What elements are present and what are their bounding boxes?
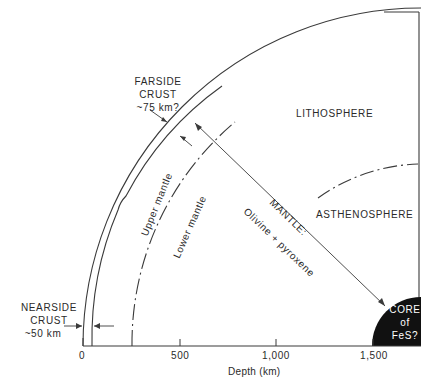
outer-surface-arc	[83, 8, 421, 346]
farside-crust-label: FARSIDE CRUST ~75 km?	[118, 75, 198, 114]
nearside-crust-label: NEARSIDE CRUST ~50 km	[14, 301, 84, 340]
lithosphere-asthenosphere-boundary	[318, 164, 418, 198]
lithosphere-label: LITHOSPHERE	[296, 107, 373, 120]
tick-500: 500	[171, 349, 190, 362]
core-label: CORE of FeS?	[388, 303, 422, 342]
farside-line1: FARSIDE	[118, 75, 198, 88]
core-line3: FeS?	[388, 329, 422, 342]
asthenosphere-label: ASTHENOSPHERE	[316, 208, 413, 221]
tick-1000: 1,000	[262, 349, 290, 362]
core-line2: of	[388, 316, 422, 329]
nearside-line3: ~50 km	[14, 327, 84, 340]
tick-1500: 1,500	[360, 349, 388, 362]
axis-label: Depth (km)	[228, 365, 280, 378]
nearside-line1: NEARSIDE	[14, 301, 84, 314]
farside-line3: ~75 km?	[118, 101, 198, 114]
core-line1: CORE	[388, 303, 422, 316]
farside-line2: CRUST	[118, 88, 198, 101]
nearside-line2: CRUST	[14, 314, 84, 327]
tick-0: 0	[79, 349, 85, 362]
